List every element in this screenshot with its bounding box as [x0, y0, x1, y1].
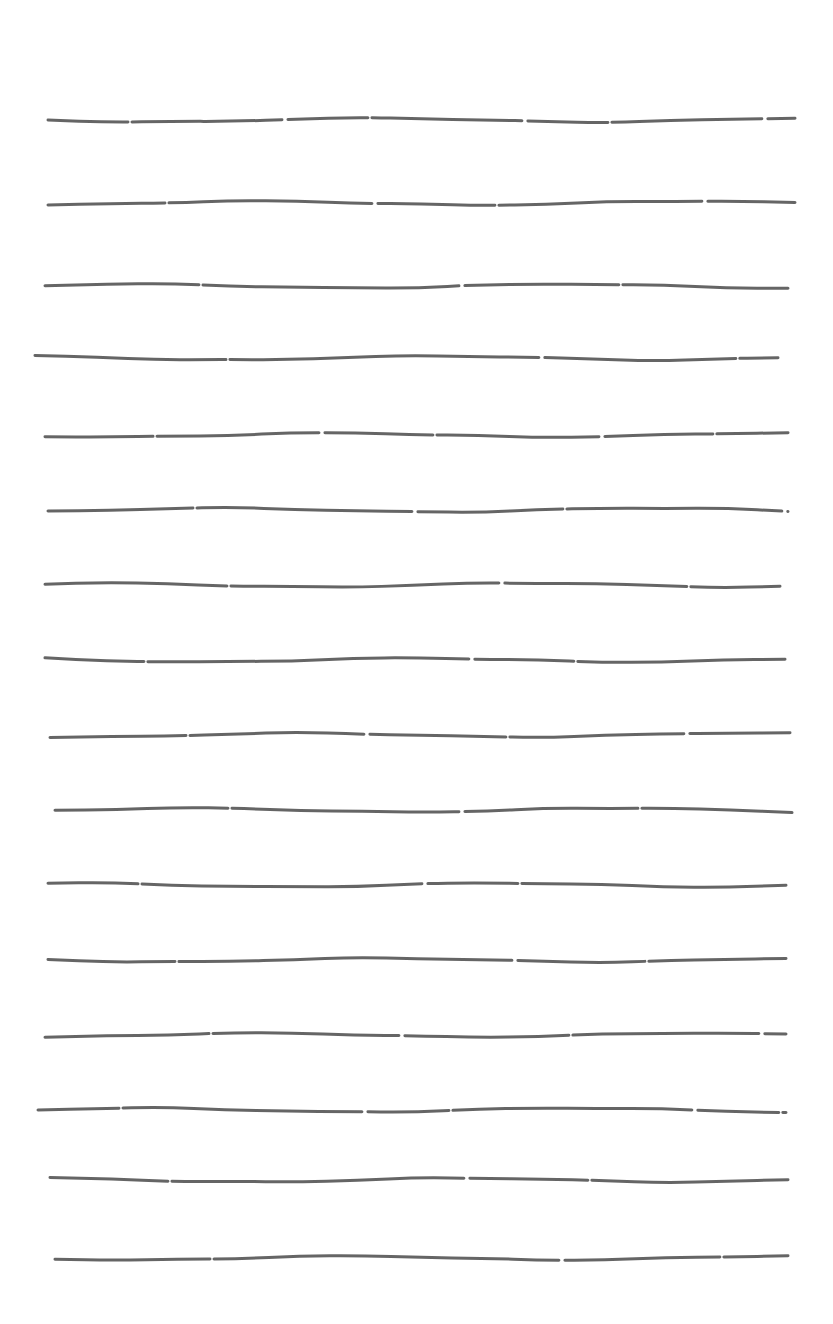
- ruled-line: [45, 433, 788, 438]
- ruled-line: [45, 1033, 786, 1038]
- ruled-line: [38, 1108, 786, 1113]
- ruled-line: [48, 118, 795, 123]
- ruled-line: [50, 1177, 788, 1182]
- ruled-line: [45, 284, 788, 289]
- ruled-line: [55, 808, 792, 813]
- ruled-line: [45, 658, 785, 662]
- ruled-line: [48, 958, 786, 963]
- ruled-line: [55, 1256, 788, 1261]
- ruled-line: [35, 355, 778, 360]
- lined-paper: [0, 0, 833, 1324]
- ruled-line: [48, 883, 786, 888]
- ruled-lines: [0, 0, 833, 1324]
- ruled-line: [50, 733, 790, 738]
- ruled-line: [45, 583, 780, 588]
- ruled-line: [48, 201, 795, 206]
- ruled-line: [48, 508, 788, 513]
